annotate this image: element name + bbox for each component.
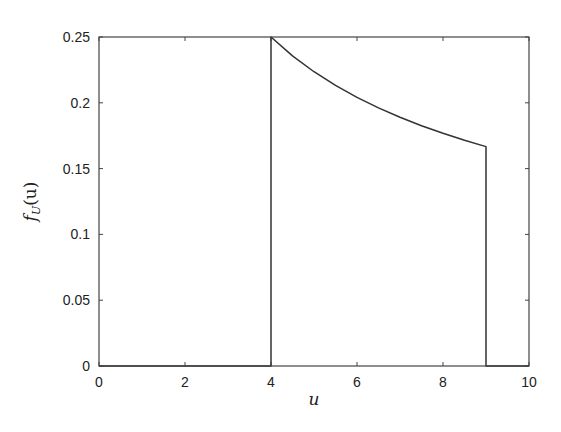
y-tick-label: 0.15 xyxy=(63,161,90,177)
y-tick-label: 0.2 xyxy=(71,95,91,111)
y-axis-ticks: 00.050.10.150.20.25 xyxy=(63,29,529,374)
axes-frame xyxy=(99,37,529,366)
y-tick-label: 0 xyxy=(82,358,90,374)
x-axis-label: u xyxy=(309,389,320,409)
y-tick-label: 0.25 xyxy=(63,29,90,45)
x-tick-label: 8 xyxy=(439,374,447,390)
y-tick-label: 0.05 xyxy=(63,292,90,308)
x-tick-label: 4 xyxy=(267,374,275,390)
x-axis-ticks: 0246810 xyxy=(95,37,537,390)
y-axis-label: fU(u) xyxy=(20,182,43,224)
y-tick-label: 0.1 xyxy=(71,226,91,242)
x-tick-label: 10 xyxy=(521,374,537,390)
chart: 0246810 00.050.10.150.20.25 u fU(u) xyxy=(0,0,561,432)
x-tick-label: 6 xyxy=(353,374,361,390)
series-layer xyxy=(99,37,529,366)
series-line xyxy=(99,37,529,366)
x-tick-label: 0 xyxy=(95,374,103,390)
x-tick-label: 2 xyxy=(181,374,189,390)
y-axis-label-arg-text: (u) xyxy=(20,182,40,206)
y-axis-label-arg: (u) xyxy=(20,182,40,206)
